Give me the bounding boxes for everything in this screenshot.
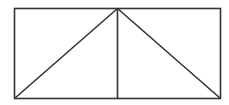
geometric-diagram (0, 0, 229, 105)
left-diagonal-line (15, 9, 118, 99)
right-diagonal-line (118, 9, 221, 99)
